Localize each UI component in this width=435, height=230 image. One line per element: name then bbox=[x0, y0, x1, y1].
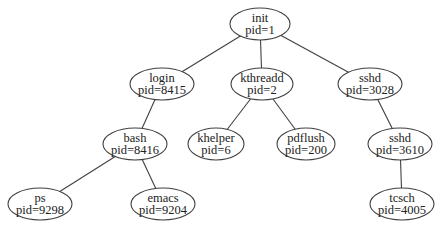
node-khelper: khelperpid=6 bbox=[188, 128, 244, 160]
node-pid-label: pid=200 bbox=[285, 143, 327, 157]
node-tcsch: tcschpid=4005 bbox=[370, 188, 434, 220]
node-pid-label: pid=3028 bbox=[346, 83, 394, 97]
node-pid-label: pid=8416 bbox=[111, 143, 159, 157]
node-pdflush: pdflushpid=200 bbox=[277, 128, 335, 160]
node-pid-label: pid=8415 bbox=[138, 83, 186, 97]
nodes: initpid=1loginpid=8415kthreaddpid=2sshdp… bbox=[8, 8, 434, 220]
node-pid-label: pid=9204 bbox=[139, 203, 188, 217]
node-init: initpid=1 bbox=[230, 8, 290, 40]
node-kthreadd: kthreaddpid=2 bbox=[231, 68, 293, 100]
node-pid-label: pid=1 bbox=[245, 23, 274, 37]
node-sshd3610: sshdpid=3610 bbox=[368, 128, 432, 160]
node-ps: pspid=9298 bbox=[8, 188, 72, 220]
node-pid-label: pid=3610 bbox=[376, 143, 424, 157]
node-pid-label: pid=4005 bbox=[378, 203, 426, 217]
node-pid-label: pid=6 bbox=[201, 143, 230, 157]
process-tree-diagram: initpid=1loginpid=8415kthreaddpid=2sshdp… bbox=[0, 0, 435, 230]
node-pid-label: pid=2 bbox=[247, 83, 276, 97]
node-bash: bashpid=8416 bbox=[103, 128, 167, 160]
node-pid-label: pid=9298 bbox=[16, 203, 64, 217]
edges bbox=[40, 24, 402, 204]
node-login: loginpid=8415 bbox=[130, 68, 194, 100]
node-sshd3028: sshdpid=3028 bbox=[338, 68, 402, 100]
node-emacs: emacspid=9204 bbox=[131, 188, 195, 220]
